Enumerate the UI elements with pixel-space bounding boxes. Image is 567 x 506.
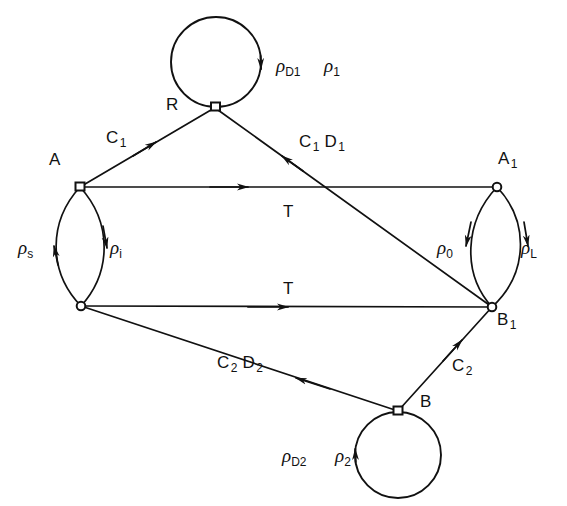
diagram-canvas: R A A1 B1 B C1 C1D1 T T C2D2 C2 ρD1 ρ1 ρ… bbox=[0, 0, 567, 506]
c1-d1-arrow bbox=[282, 156, 303, 171]
rho-l-glyph: ρ bbox=[521, 237, 530, 258]
node-A-lower bbox=[77, 302, 86, 311]
rho-label-1: ρ1 bbox=[324, 56, 340, 78]
node-label-B1-sub: 1 bbox=[509, 318, 517, 332]
node-A1 bbox=[493, 183, 502, 192]
node-R bbox=[211, 103, 220, 111]
edge-label-c2-d2: C2D2 bbox=[217, 354, 263, 374]
c2-d2-arrow bbox=[296, 378, 330, 389]
rho-label-s: ρs bbox=[18, 238, 33, 260]
rho-0-arrow bbox=[466, 222, 471, 246]
edge-label-c1d1-d-sub: 1 bbox=[337, 140, 345, 154]
c1-arrow bbox=[133, 142, 156, 156]
edge-c1 bbox=[80, 107, 216, 187]
edge-label-c1-base: C bbox=[106, 128, 119, 147]
rho-d1-sub: D1 bbox=[285, 65, 300, 79]
rho-d1-glyph: ρ bbox=[276, 55, 285, 76]
rho-s-glyph: ρ bbox=[18, 237, 27, 258]
edge-label-t-upper: T bbox=[283, 203, 294, 220]
node-B1 bbox=[488, 303, 497, 312]
edge-label-c2d2-d-sub: 2 bbox=[255, 361, 263, 375]
rho-label-d2: ρD2 bbox=[282, 446, 306, 468]
node-label-B1: B1 bbox=[497, 311, 517, 331]
node-B bbox=[394, 407, 403, 415]
edge-rho-0 bbox=[466, 187, 497, 307]
node-label-A1-sub: 1 bbox=[510, 157, 518, 171]
edge-label-c1d1-d: D bbox=[319, 132, 337, 151]
rho-label-d1: ρD1 bbox=[276, 56, 300, 78]
edge-t-lower bbox=[81, 306, 492, 307]
edge-label-t-lower: T bbox=[283, 280, 294, 297]
rho-label-l: ρL bbox=[521, 238, 537, 260]
rho-1-sub: 1 bbox=[333, 65, 340, 79]
node-label-R: R bbox=[166, 96, 179, 113]
edge-bottom-loop bbox=[355, 412, 441, 498]
rho-0-sub: 0 bbox=[446, 247, 453, 261]
rho-i-sub: i bbox=[119, 247, 122, 261]
rho-i-glyph: ρ bbox=[110, 237, 119, 258]
node-label-A1-base: A bbox=[498, 149, 510, 168]
edge-label-c2-base: C bbox=[452, 356, 465, 375]
rho-1-glyph: ρ bbox=[324, 55, 333, 76]
rho-s-sub: s bbox=[27, 247, 33, 261]
rho-label-i: ρi bbox=[110, 238, 122, 260]
rho-d2-glyph: ρ bbox=[282, 445, 291, 466]
rho-2-glyph: ρ bbox=[335, 445, 344, 466]
edge-label-c1: C1 bbox=[106, 129, 126, 149]
node-label-B: B bbox=[420, 393, 432, 410]
node-label-A: A bbox=[49, 151, 61, 168]
edge-label-c1d1-c: C bbox=[299, 132, 312, 151]
rho-label-0: ρ0 bbox=[437, 238, 453, 260]
rho-2-sub: 2 bbox=[344, 455, 351, 469]
rho-0-glyph: ρ bbox=[437, 237, 446, 258]
rho-d2-sub: D2 bbox=[291, 455, 306, 469]
rho-label-2: ρ2 bbox=[335, 446, 351, 468]
node-label-B1-base: B bbox=[497, 310, 509, 329]
edge-label-c1-d1: C1D1 bbox=[299, 133, 345, 153]
edge-label-c1-sub: 1 bbox=[119, 136, 127, 150]
edge-label-c2d2-c: C bbox=[217, 353, 230, 372]
node-label-A1: A1 bbox=[498, 150, 518, 170]
edge-label-c2: C2 bbox=[452, 357, 472, 377]
edge-rho-i bbox=[80, 187, 107, 306]
edge-label-c2d2-d: D bbox=[237, 353, 255, 372]
edge-rho-s bbox=[54, 187, 81, 306]
node-A bbox=[76, 183, 85, 191]
edge-top-loop bbox=[171, 17, 261, 107]
edge-c1-d1 bbox=[218, 110, 492, 307]
edge-c2 bbox=[398, 307, 492, 411]
rho-l-sub: L bbox=[530, 247, 537, 261]
edge-label-c2-sub: 2 bbox=[465, 364, 473, 378]
